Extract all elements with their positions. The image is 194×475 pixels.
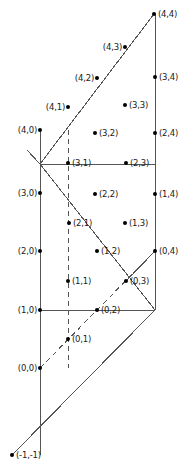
lattice-diagram: (4,4)(4,3)(3,4)(4,2)(3,3)(4,1)(4,0)(3,2)… <box>0 0 194 475</box>
diagonal-up-left-to-top-right <box>40 14 154 164</box>
lattice-dot <box>67 221 71 225</box>
point-label: (4,4) <box>158 10 177 19</box>
lattice-dot <box>95 308 99 312</box>
point-label: (3,0) <box>18 189 37 198</box>
lattice-dot <box>123 221 127 225</box>
lattice-dot <box>153 131 157 135</box>
lattice-dot <box>38 191 42 195</box>
point-label: (2,3) <box>130 159 149 168</box>
lattice-dot <box>124 161 128 165</box>
lattice-dot <box>153 75 157 79</box>
point-label: (2,4) <box>159 129 178 138</box>
lattice-dot <box>66 161 70 165</box>
lattice-dot <box>124 279 128 283</box>
lattice-dot <box>152 12 156 16</box>
point-label: (4,2) <box>75 74 94 83</box>
point-label: (3,1) <box>72 159 91 168</box>
lattice-dot <box>38 128 42 132</box>
lattice-dot <box>95 249 99 253</box>
point-label: (0,1) <box>72 335 91 344</box>
point-label: (0,0) <box>18 364 37 373</box>
point-label: (1,4) <box>159 190 178 199</box>
lattice-dot <box>95 76 99 80</box>
lattice-dot <box>93 192 97 196</box>
lattice-dot <box>123 103 127 107</box>
lattice-dot <box>66 337 70 341</box>
point-label: (4,3) <box>103 43 122 52</box>
lattice-dot <box>123 45 127 49</box>
point-label: (4,0) <box>18 126 37 135</box>
point-label: (1,2) <box>101 247 120 256</box>
point-label: (4,1) <box>46 103 65 112</box>
point-label: (0,2) <box>101 306 120 315</box>
point-label: (2,0) <box>18 247 37 256</box>
point-label: (1,1) <box>72 277 91 286</box>
point-label: (2,2) <box>99 190 118 199</box>
lattice-dot <box>10 453 14 457</box>
lattice-dot <box>153 192 157 196</box>
lattice-dot <box>38 366 42 370</box>
point-label: (-1,-1) <box>16 451 41 460</box>
diagonal-descending-main <box>40 164 155 310</box>
point-label: (1,0) <box>18 306 37 315</box>
diagonal-bottom-long <box>12 310 155 455</box>
lattice-dot <box>38 249 42 253</box>
point-label: (1,3) <box>129 219 148 228</box>
lattice-dot <box>66 279 70 283</box>
lattice-dot <box>93 131 97 135</box>
point-label: (3,2) <box>99 129 118 138</box>
lattice-dot <box>66 105 70 109</box>
point-label: (2,1) <box>73 219 92 228</box>
diagonal-apex-edge-short <box>27 150 40 164</box>
point-label: (0,3) <box>130 277 149 286</box>
point-label: (0,4) <box>159 247 178 256</box>
lattice-dot <box>153 249 157 253</box>
point-label: (3,4) <box>159 73 178 82</box>
point-label: (3,3) <box>129 101 148 110</box>
lattice-dot <box>38 308 42 312</box>
